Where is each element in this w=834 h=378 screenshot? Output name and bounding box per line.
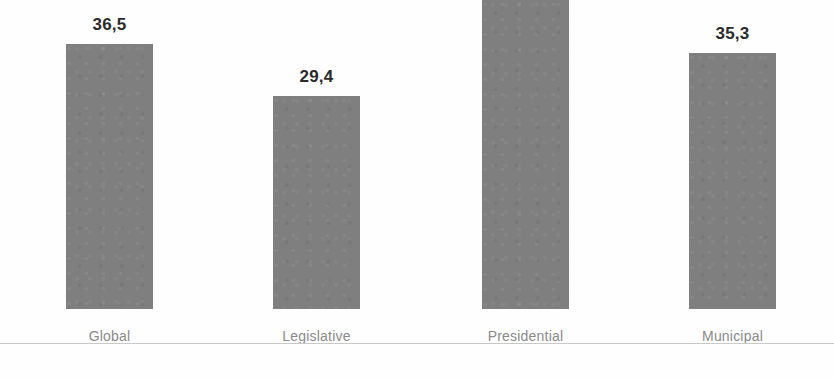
bar-value-label: 35,3 xyxy=(716,24,750,44)
bar-value-label: 29,4 xyxy=(300,67,334,87)
bar-chart: 36,5 Global 29,4 Legislative 42,6 Presid… xyxy=(0,0,834,378)
bar-group-global[interactable]: 36,5 Global xyxy=(66,44,153,309)
category-label-municipal: Municipal xyxy=(702,328,763,344)
plot-area: 36,5 Global 29,4 Legislative 42,6 Presid… xyxy=(0,0,834,344)
bar-rect[interactable] xyxy=(482,0,569,309)
bar-group-municipal[interactable]: 35,3 Municipal xyxy=(689,53,776,309)
category-axis-line xyxy=(0,343,834,344)
bar-group-presidential[interactable]: 42,6 Presidential xyxy=(482,0,569,309)
bar-group-legislative[interactable]: 29,4 Legislative xyxy=(273,96,360,309)
category-label-legislative: Legislative xyxy=(282,328,350,344)
bar-rect[interactable] xyxy=(689,53,776,309)
bar-rect[interactable] xyxy=(273,96,360,309)
category-label-global: Global xyxy=(89,328,131,344)
bar-value-label: 36,5 xyxy=(93,15,127,35)
bar-rect[interactable] xyxy=(66,44,153,309)
category-label-presidential: Presidential xyxy=(488,328,564,344)
